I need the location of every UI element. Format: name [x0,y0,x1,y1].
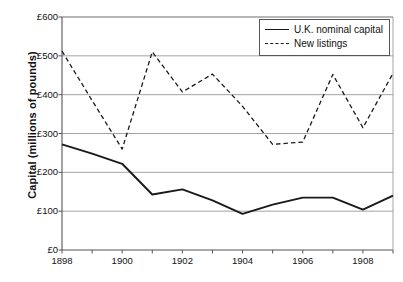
series-line-u-k-nominal-capital [62,144,393,214]
legend-swatch-solid-line [265,24,289,36]
legend-label-uk-nominal-capital: U.K. nominal capital [294,24,383,36]
legend-item-new-listings: New listings [265,37,383,51]
legend-item-uk-nominal-capital: U.K. nominal capital [265,23,383,37]
legend-label-new-listings: New listings [294,38,347,50]
series-line-new-listings [62,51,393,149]
data-series-layer [62,51,393,214]
chart-figure: Capital (millions of pounds) £0£100£200£… [0,0,403,282]
chart-legend: U.K. nominal capital New listings [259,19,390,56]
legend-swatch-dashed-line [265,38,289,50]
